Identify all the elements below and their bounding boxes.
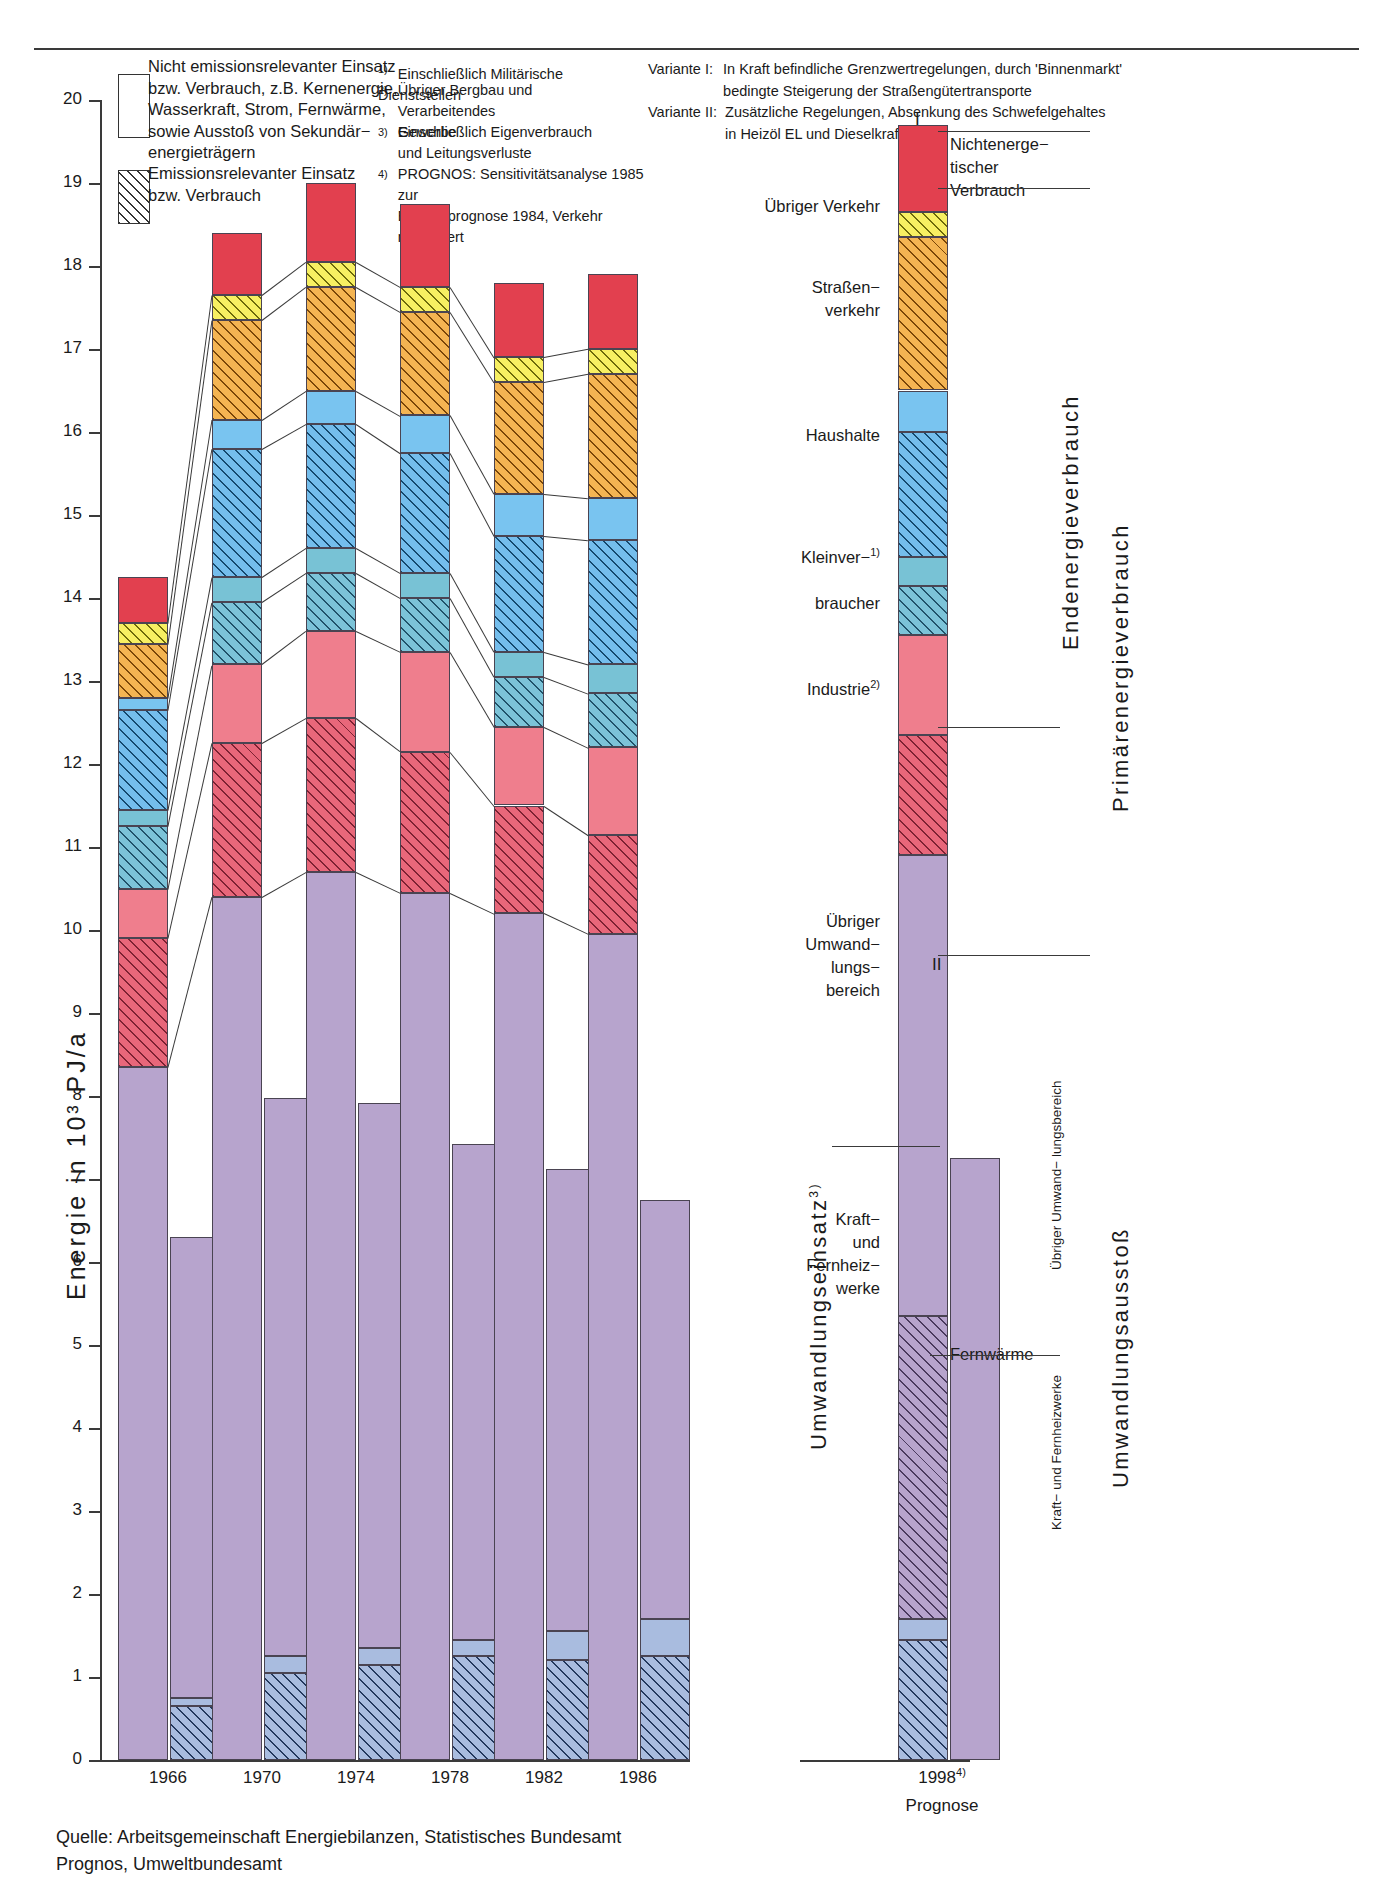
y-tick-label: 1 [48,1666,82,1686]
leader-umwandlung-top [938,727,1060,728]
footnote-2-num: 2) [378,84,388,96]
y-tick [89,681,100,683]
bar-segment-left [118,1067,168,1760]
label-kleinverbraucher-text: Kleinver− [801,548,870,566]
label-industrie-sup: 2) [870,678,880,690]
y-tick-label: 4 [48,1417,82,1437]
connector-boundary [356,287,401,313]
bar-segment-right [640,1619,690,1656]
source-note: Quelle: Arbeitsgemeinschaft Energiebilan… [56,1824,621,1878]
bar-segment-left [494,806,544,914]
bar-segment-left [400,652,450,752]
bar-segment-left [494,913,544,1760]
bar-segment-left [588,374,638,499]
bar-segment-prognose-I [898,586,948,636]
bar-segment-left [306,183,356,262]
bar-segment-prognose-I [898,125,948,212]
connector-boundary [356,548,401,574]
bar-segment-left [588,540,638,665]
bar-segment-left [588,349,638,374]
connector-boundary [544,806,589,836]
prognose-year-label: 19984) [872,1766,1012,1788]
bar-segment-left [306,262,356,287]
bar-segment-left [118,623,168,644]
bar-segment-left [118,938,168,1067]
y-tick [89,1179,100,1181]
y-tick [89,1760,100,1762]
connector-boundary [544,913,589,935]
bar-segment-left [400,453,450,573]
bar-segment-right [640,1656,690,1760]
label-umwandlungseinsatz-text: Umwandlungseinsatz [806,1198,831,1450]
bar-segment-left [306,287,356,391]
y-tick-label: 14 [48,587,82,607]
bar-segment-left [306,548,356,573]
bar-segment-left [212,664,262,743]
y-tick-label: 7 [48,1168,82,1188]
bar-segment-left [118,810,168,827]
legend-label-emission: Emissionsrelevanter Einsatz bzw. Verbrau… [148,163,398,206]
y-tick [89,1428,100,1430]
label-kraft-und-fernheizwerke: Kraft− und Fernheiz− werke [700,1208,880,1300]
bar-segment-left [212,897,262,1760]
connector-boundary [544,349,588,358]
bar-segment-prognose-II [950,1158,1000,1760]
x-axis-line-prognose [800,1760,970,1762]
connector-boundary [262,391,307,421]
connector-boundary [262,548,307,578]
bar-segment-prognose-I-kraftwerke [898,1640,948,1760]
bar-segment-right [640,1200,690,1619]
footnote-3-num: 3) [378,126,388,138]
connector-boundary [544,677,588,695]
prognose-year: 1998 [918,1768,956,1787]
y-axis-line [100,100,102,1760]
connector-boundary [262,287,307,321]
y-tick-label: 16 [48,421,82,441]
prognose-caption: Prognose [872,1796,1012,1816]
connector-boundary [356,631,401,653]
leader-fernwaerme [930,1355,1060,1356]
y-tick [89,1345,100,1347]
bar-segment-left [400,893,450,1760]
connector-boundary [262,718,307,744]
bar-segment-left [494,494,544,536]
connector-boundary [356,391,401,417]
y-tick-label: 13 [48,670,82,690]
footnote-4-num: 4) [378,168,388,180]
y-tick-label: 10 [48,919,82,939]
bar-segment-left [212,233,262,295]
y-tick [89,598,100,600]
label-kleinverbraucher-sup: 1) [870,546,880,558]
bar-segment-left [212,743,262,897]
connector-boundary [544,652,588,666]
variant-1-text: In Kraft befindliche Grenzwertregelungen… [723,59,1143,102]
bar-segment-left [400,204,450,287]
footnote-1-num: 1) [378,63,388,75]
x-tick-label: 1986 [578,1768,698,1788]
connector-boundary [449,652,494,727]
bar-segment-left [118,710,168,810]
bar-segment-left [588,747,638,834]
leader-variant2-top [938,955,1090,956]
bar-segment-prognose-I [898,557,948,586]
bar-segment-left [400,287,450,312]
bar-segment-prognose-I [898,237,948,391]
bar-segment-left [212,295,262,320]
connector-boundary [450,752,495,807]
bar-segment-left [306,391,356,424]
y-tick [89,764,100,766]
bar-segment-left [494,652,544,677]
y-tick-label: 9 [48,1002,82,1022]
label-kleinverbraucher: Kleinver−1) braucher [700,518,880,615]
variant-2-label: Variante II: [648,104,717,120]
label-haushalte: Haushalte [700,424,880,447]
y-tick-label: 20 [48,89,82,109]
y-tick [89,930,100,932]
y-tick [89,1013,100,1015]
y-tick-label: 2 [48,1583,82,1603]
variant-roman-one: I [915,110,920,130]
connector-boundary [544,536,588,541]
bar-segment-left [400,312,450,416]
bar-segment-left [306,718,356,872]
label-industrie: Industrie2) [700,650,880,701]
